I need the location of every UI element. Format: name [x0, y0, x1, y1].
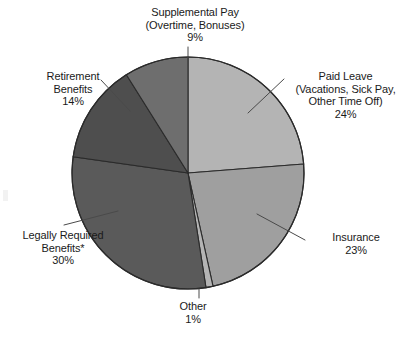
label-legally-required-benefits-line2: Benefits*: [41, 242, 84, 254]
label-supplemental-pay-percent: 9%: [120, 31, 270, 44]
label-supplemental-pay-line1: Supplemental Pay: [151, 6, 239, 18]
label-insurance-line1: Insurance: [332, 231, 379, 243]
label-insurance: Insurance 23%: [309, 231, 403, 256]
slice-legally-required-benefits[interactable]: [72, 157, 206, 289]
label-legally-required-benefits-percent: 30%: [2, 254, 124, 267]
label-retirement-benefits: Retirement Benefits 14%: [18, 70, 128, 108]
pie-chart-graphic: [0, 0, 403, 343]
label-other-line1: Other: [179, 300, 206, 312]
label-supplemental-pay: Supplemental Pay (Overtime, Bonuses) 9%: [120, 6, 270, 44]
label-insurance-percent: 23%: [309, 244, 403, 257]
label-paid-leave-line3: Other Time Off): [308, 95, 382, 107]
label-paid-leave-percent: 24%: [288, 108, 403, 121]
label-retirement-benefits-line1: Retirement: [47, 70, 100, 82]
slice-paid-leave[interactable]: [188, 57, 304, 173]
label-legally-required-benefits: Legally Required Benefits* 30%: [2, 229, 124, 267]
label-retirement-benefits-line2: Benefits: [54, 83, 93, 95]
label-other: Other 1%: [163, 300, 223, 325]
label-paid-leave-line2: (Vacations, Sick Pay,: [295, 83, 395, 95]
label-other-percent: 1%: [163, 313, 223, 326]
label-paid-leave-line1: Paid Leave: [318, 70, 372, 82]
label-supplemental-pay-line2: (Overtime, Bonuses): [146, 19, 245, 31]
label-retirement-benefits-percent: 14%: [18, 95, 128, 108]
pie-chart-figure: Supplemental Pay (Overtime, Bonuses) 9% …: [0, 0, 403, 343]
scan-artifact: [3, 190, 8, 201]
label-legally-required-benefits-line1: Legally Required: [23, 229, 104, 241]
label-paid-leave: Paid Leave (Vacations, Sick Pay, Other T…: [288, 70, 403, 120]
